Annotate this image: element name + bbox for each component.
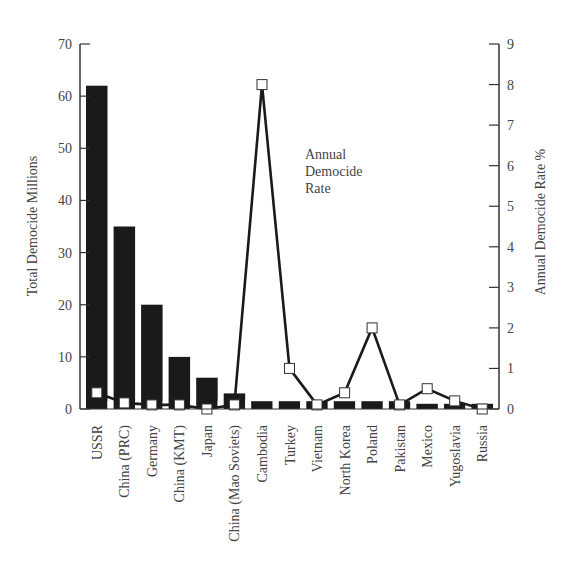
rate-marker-square — [119, 398, 129, 408]
right-tick-label: 4 — [507, 240, 514, 255]
right-tick-label: 0 — [507, 402, 514, 417]
bar-gap — [300, 401, 302, 409]
right-tick-label: 2 — [507, 321, 514, 336]
right-tick-label: 6 — [507, 159, 514, 174]
category-label: China (Mao Soviets) — [227, 425, 243, 542]
bar-series-total-democide — [86, 86, 495, 409]
category-label: Japan — [200, 425, 215, 457]
category-label: China (KMT) — [172, 425, 188, 503]
right-tick-label: 8 — [507, 78, 514, 93]
category-label: China (PRC) — [117, 425, 133, 498]
bar-cambodia — [251, 401, 273, 409]
category-label: Poland — [365, 425, 380, 464]
left-tick-label: 50 — [58, 141, 72, 156]
rate-marker-square — [422, 384, 432, 394]
bar-gap — [108, 401, 110, 409]
category-label: Cambodia — [255, 424, 270, 482]
category-label: USSR — [90, 424, 105, 460]
annotation-annual-democide-rate: Democide — [305, 164, 363, 179]
bar-china-prc- — [114, 227, 136, 410]
bar-gap — [493, 401, 495, 409]
rate-marker-square — [340, 388, 350, 398]
category-label: Pakistan — [393, 425, 408, 472]
bar-gap — [383, 401, 385, 409]
category-label: Turkey — [283, 425, 298, 465]
bar-north-korea — [334, 401, 356, 409]
bar-gap — [273, 401, 275, 409]
category-label: Vietnam — [310, 425, 325, 472]
bar-ussr — [86, 86, 108, 409]
left-tick-label: 20 — [58, 298, 72, 313]
rate-marker-square — [367, 323, 377, 333]
left-tick-label: 60 — [58, 89, 72, 104]
right-tick-label: 3 — [507, 280, 514, 295]
bar-gap — [410, 401, 412, 409]
right-tick-label: 5 — [507, 199, 514, 214]
right-axis-title: Annual Democide Rate % — [533, 148, 548, 295]
right-tick-label: 7 — [507, 118, 514, 133]
annotation-annual-democide-rate: Annual — [305, 147, 346, 162]
bar-gap — [328, 401, 330, 409]
rate-marker-square — [92, 388, 102, 398]
category-label: Russia — [475, 424, 490, 462]
left-axis-title: Total Democide Millions — [25, 156, 40, 297]
category-label: Mexico — [420, 425, 435, 468]
left-tick-label: 70 — [58, 37, 72, 52]
right-tick-label: 9 — [507, 37, 514, 52]
right-tick-label: 1 — [507, 361, 514, 376]
bar-poland — [361, 401, 383, 409]
rate-marker-square — [450, 396, 460, 406]
chart-container: 0102030405060700123456789 USSRChina (PRC… — [0, 0, 569, 568]
bar-gap — [245, 401, 247, 409]
category-label: North Korea — [338, 424, 353, 495]
bar-gap — [438, 401, 440, 409]
left-tick-label: 0 — [65, 402, 72, 417]
left-tick-label: 10 — [58, 350, 72, 365]
bar-mexico — [416, 404, 438, 409]
category-label: Yugoslavia — [448, 424, 463, 487]
rate-marker-square — [257, 80, 267, 90]
bar-germany — [141, 305, 163, 409]
category-label: Germany — [145, 425, 160, 477]
bar-gap — [355, 401, 357, 409]
left-tick-label: 40 — [58, 193, 72, 208]
dual-axis-chart: 0102030405060700123456789 USSRChina (PRC… — [0, 0, 569, 568]
left-tick-label: 30 — [58, 246, 72, 261]
bar-turkey — [279, 401, 301, 409]
annotation-annual-democide-rate: Rate — [305, 181, 331, 196]
rate-marker-square — [285, 363, 295, 373]
